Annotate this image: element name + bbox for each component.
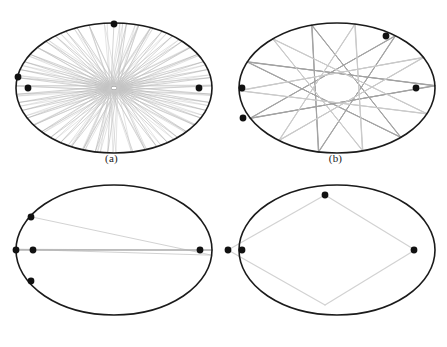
bounce-point-top (322, 192, 329, 199)
trajectory-chord (325, 250, 415, 305)
panel-c-chords (16, 217, 212, 256)
panel-c: (c) (0, 174, 223, 347)
panel-a-caption: (a) (0, 152, 223, 164)
panel-b-dots (239, 33, 420, 122)
bounce-point-upper-left (28, 214, 35, 221)
focus-left (239, 247, 246, 254)
panel-d-chords (228, 195, 415, 305)
focus-right (196, 85, 203, 92)
trajectory-chord (325, 195, 415, 250)
focus-right (411, 247, 418, 254)
bounce-point-lower-left (28, 278, 35, 285)
focus-right (197, 247, 204, 254)
panel-b: (b) (224, 0, 447, 173)
trajectory-chord (247, 62, 400, 138)
panel-b-caption: (b) (224, 152, 447, 164)
trajectory-chord (228, 195, 325, 250)
trajectory-chord (247, 62, 435, 86)
focus-left (25, 85, 32, 92)
focus-left (30, 247, 37, 254)
panel-b-ellipse-boundary (239, 23, 435, 153)
bounce-point-upper-right (383, 33, 390, 40)
bounce-point-left (15, 74, 22, 81)
bounce-point-left-vertex (13, 247, 20, 254)
panel-b-chords (239, 24, 435, 152)
figure-root: (a) (b) (c) (d) (0, 0, 447, 347)
trajectory-chord (273, 39, 427, 114)
panel-d-diagram (224, 174, 447, 347)
panel-d-ellipse-boundary (239, 185, 435, 315)
bounce-point-left-vertex (225, 247, 232, 254)
trajectory-chord (228, 250, 325, 305)
focus-left (239, 85, 246, 92)
focus-right (413, 85, 420, 92)
panel-d-dots (225, 192, 418, 254)
trajectory-chord (239, 90, 427, 114)
trajectory-chord (239, 58, 424, 91)
panel-b-diagram (224, 0, 447, 173)
trajectory-chord (250, 86, 435, 118)
panel-a-diagram (0, 0, 223, 173)
panel-c-diagram (0, 174, 223, 347)
panel-a: (a) (0, 0, 223, 173)
bounce-point-lower-left (240, 115, 247, 122)
bounce-point-top (111, 21, 118, 28)
trajectory-chord (279, 58, 424, 141)
panel-c-dots (13, 214, 204, 285)
panel-d: (d) (224, 174, 447, 347)
